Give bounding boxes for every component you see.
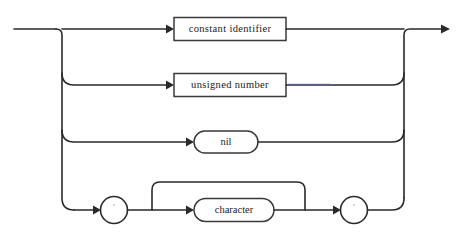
- alternative-nil[interactable]: nil: [186, 130, 404, 153]
- terminal-label-nil: nil: [220, 136, 231, 147]
- alternative-quoted-character-string[interactable]: ' character ': [93, 182, 404, 224]
- syntax-diagram-canvas: constant identifier unsigned number nil …: [0, 0, 463, 236]
- branch-stub-row-2: [62, 73, 166, 85]
- arrow-into-constant-identifier: [166, 25, 174, 34]
- alternative-constant-identifier[interactable]: constant identifier: [166, 18, 404, 41]
- rail-out-nil: [258, 130, 404, 142]
- arrow-into-nil: [186, 138, 194, 147]
- arrow-into-unsigned-number: [166, 81, 174, 90]
- rail-out-unsigned-number: [286, 73, 404, 85]
- nonterminal-label-unsigned-number: unsigned number: [191, 79, 269, 90]
- alternative-unsigned-number[interactable]: unsigned number: [166, 73, 404, 97]
- nonterminal-label-constant-identifier: constant identifier: [189, 23, 272, 34]
- nonterminal-label-character: character: [215, 204, 254, 215]
- entry-rail: [14, 29, 74, 210]
- arrow-exit: [441, 25, 450, 34]
- arrow-into-character: [186, 206, 194, 215]
- branch-stub-row-3: [62, 130, 186, 142]
- exit-rail: [404, 25, 450, 198]
- railroad-diagram: constant identifier unsigned number nil …: [0, 0, 463, 236]
- rail-out-quoted-string: [368, 198, 405, 210]
